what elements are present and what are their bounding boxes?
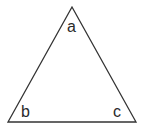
vertex-label-c: c [113, 104, 121, 120]
vertex-label-a: a [67, 19, 76, 35]
vertex-label-b: b [21, 104, 30, 120]
